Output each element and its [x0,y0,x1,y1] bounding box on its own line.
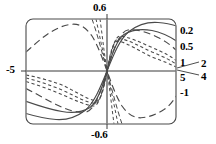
curve-label-4: 4 [201,71,206,82]
axis-label-bottom: -0.6 [91,129,108,140]
curve-label-1: 1 [180,57,185,68]
curve-label-0-5: 0.5 [180,41,193,52]
curve-label-0-2: 0.2 [180,25,193,36]
curve-label-2: 2 [201,58,206,69]
axis-label-left: -5 [6,64,15,75]
curve-label-minus-1: -1 [180,87,189,98]
axis-label-top: 0.6 [93,2,106,13]
curve-family-figure: 0.6 -0.6 -5 0.2 0.5 1 2 5 4 -1 [0,0,216,144]
curve-label-5: 5 [180,72,185,83]
